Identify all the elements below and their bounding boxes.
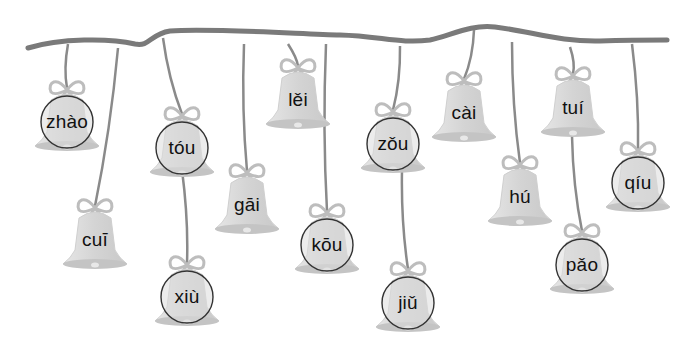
string: [324, 44, 327, 211]
bell-clapper: [460, 136, 468, 141]
bell-clapper: [294, 123, 302, 128]
pinyin-label-qiu: qíu: [624, 172, 651, 194]
pinyin-label-zhao: zhào: [46, 111, 88, 133]
pinyin-label-tou: tóu: [168, 137, 195, 159]
string: [402, 170, 408, 269]
string: [95, 48, 118, 206]
string: [512, 42, 520, 163]
string: [163, 38, 182, 114]
string: [572, 136, 582, 231]
pinyin-label-hu: hú: [509, 186, 531, 208]
pinyin-label-lei: lěi: [288, 89, 308, 111]
pinyin-label-pao: pǎo: [566, 254, 598, 276]
pinyin-label-gai: gāi: [234, 194, 260, 216]
string: [570, 47, 574, 74]
bell-scene: [0, 0, 696, 354]
bell-clapper: [243, 228, 251, 233]
string: [393, 46, 400, 110]
pinyin-label-xiu: xiù: [175, 286, 200, 308]
pinyin-label-cui: cuī: [82, 229, 108, 251]
string: [632, 44, 638, 149]
ribbon: [28, 27, 667, 48]
pinyin-label-cai: cài: [452, 102, 477, 124]
string: [182, 170, 187, 263]
pinyin-label-tui: tuí: [562, 97, 584, 119]
pinyin-label-kou: kōu: [311, 234, 342, 256]
pinyin-label-zou: zǒu: [377, 133, 408, 155]
bell-clapper: [91, 263, 99, 268]
pinyin-label-jiu: jiǔ: [398, 292, 418, 314]
bell-clapper: [569, 131, 577, 136]
string: [65, 44, 68, 88]
string: [243, 44, 247, 171]
bell-clapper: [516, 220, 524, 225]
